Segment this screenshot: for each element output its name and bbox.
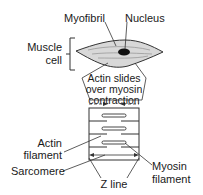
z-line-leader-left [89,158,101,178]
label-actin-line1: Actin [10,137,62,149]
label-actin-line2: filament [10,149,62,161]
label-myosin-line2: filament [152,173,191,185]
z-line-leader-right [127,158,139,178]
callout-text-line3: contraction [84,94,144,106]
label-sarcomere: Sarcomere [11,165,65,177]
muscle-cell-bracket [66,38,75,70]
nucleus-shape [118,49,130,56]
sarcomere-leader [63,155,105,171]
label-z-line: Z line [94,178,134,190]
label-nucleus: Nucleus [125,12,165,24]
label-muscle-cell-line2: cell [22,54,62,66]
muscle-contraction-diagram: Myofibril Nucleus Muscle cell Actin slid… [0,0,203,195]
label-myosin-line1: Myosin [152,160,187,172]
label-muscle-cell-line1: Muscle [22,41,62,53]
label-myofibril: Myofibril [64,12,105,24]
